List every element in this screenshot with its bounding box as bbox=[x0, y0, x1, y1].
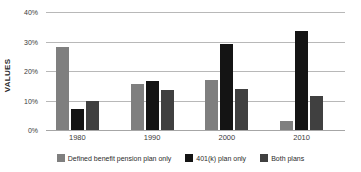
y-axis-tick-labels: 0%10%20%30%40% bbox=[16, 12, 42, 130]
bar bbox=[56, 47, 69, 130]
bar-group-2000 bbox=[205, 12, 248, 130]
legend-item[interactable]: Defined benefit pension plan only bbox=[57, 154, 172, 162]
bar bbox=[131, 84, 144, 130]
y-tick-label: 20% bbox=[12, 68, 38, 75]
bar bbox=[161, 90, 174, 130]
chart-legend: Defined benefit pension plan only401(k) … bbox=[0, 149, 361, 167]
bar-group-2010 bbox=[280, 12, 323, 130]
legend-label: 401(k) plan only bbox=[196, 155, 246, 162]
y-tick-label: 30% bbox=[12, 38, 38, 45]
gridline-0% bbox=[46, 130, 345, 131]
bar-group-1990 bbox=[131, 12, 174, 130]
bar bbox=[205, 80, 218, 130]
x-axis-tick-labels: 1980199020002010 bbox=[46, 133, 345, 145]
legend-item[interactable]: 401(k) plan only bbox=[185, 154, 246, 162]
plot-area bbox=[46, 12, 345, 130]
bar bbox=[310, 96, 323, 130]
x-tick-label: 1990 bbox=[122, 133, 182, 143]
x-tick-label: 2000 bbox=[197, 133, 257, 143]
legend-label: Defined benefit pension plan only bbox=[68, 155, 172, 162]
bar bbox=[71, 109, 84, 130]
bar bbox=[280, 121, 293, 130]
legend-item[interactable]: Both plans bbox=[260, 154, 304, 162]
legend-label: Both plans bbox=[271, 155, 304, 162]
y-tick-label: 10% bbox=[12, 97, 38, 104]
bar-group-1980 bbox=[56, 12, 99, 130]
y-axis-title-label: VALUES bbox=[4, 58, 13, 92]
legend-swatch-icon bbox=[57, 154, 65, 162]
bar bbox=[235, 89, 248, 130]
legend-swatch-icon bbox=[185, 154, 193, 162]
legend-swatch-icon bbox=[260, 154, 268, 162]
bar bbox=[146, 81, 159, 130]
x-tick-label: 1980 bbox=[47, 133, 107, 143]
bar bbox=[220, 44, 233, 130]
bar bbox=[86, 101, 99, 131]
bar bbox=[295, 31, 308, 130]
y-tick-label: 40% bbox=[12, 9, 38, 16]
y-tick-label: 0% bbox=[12, 127, 38, 134]
bar-chart: VALUES 0%10%20%30%40% 1980199020002010 D… bbox=[0, 0, 361, 172]
x-tick-label: 2010 bbox=[272, 133, 332, 143]
